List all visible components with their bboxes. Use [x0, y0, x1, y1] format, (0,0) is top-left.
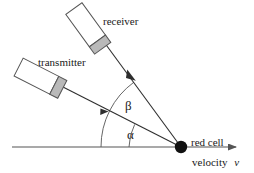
- receiver-probe[interactable]: [66, 3, 111, 54]
- receiver-label: receiver: [103, 15, 139, 27]
- beta-label: β: [125, 98, 132, 113]
- alpha-label: α: [127, 127, 134, 142]
- transmitter-label: transmitter: [38, 56, 86, 68]
- transmitter-beam-line: [61, 86, 181, 147]
- doppler-diagram: receiver transmitter β α red cell veloci…: [0, 0, 254, 173]
- transmitter-beam-group: [61, 86, 181, 147]
- red-cell-dot[interactable]: [175, 141, 187, 153]
- receiver-beam-line: [104, 42, 181, 147]
- red-cell-label: red cell: [191, 136, 224, 148]
- receiver-beam-group: [104, 42, 181, 147]
- velocity-label: velocity v: [192, 156, 239, 168]
- diagram-canvas: receiver transmitter β α red cell veloci…: [0, 0, 254, 173]
- velocity-label-text: velocity: [192, 156, 228, 168]
- receiver-beam-arrowhead: [126, 70, 136, 81]
- velocity-symbol: v: [234, 156, 239, 168]
